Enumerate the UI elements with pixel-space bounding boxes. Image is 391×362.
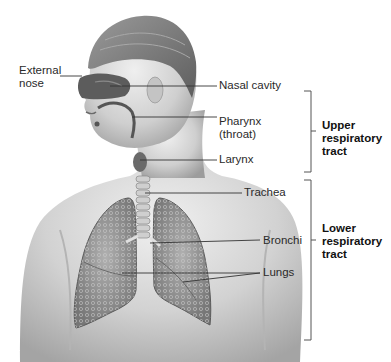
- bracket-lower: [304, 180, 316, 340]
- head: [78, 16, 196, 148]
- bracket-upper: [304, 91, 316, 172]
- label-larynx: Larynx: [219, 153, 254, 166]
- label-bronchi: Bronchi: [263, 234, 302, 247]
- group-lower-respiratory-tract: Lower respiratory tract: [322, 222, 382, 261]
- label-external-nose: External nose: [19, 64, 61, 90]
- respiratory-illustration: [0, 0, 391, 362]
- label-lungs: Lungs: [263, 266, 294, 279]
- label-trachea: Trachea: [244, 186, 286, 199]
- label-pharynx: Pharynx (throat): [219, 115, 261, 141]
- label-nasal-cavity: Nasal cavity: [219, 79, 281, 92]
- group-upper-respiratory-tract: Upper respiratory tract: [322, 119, 382, 158]
